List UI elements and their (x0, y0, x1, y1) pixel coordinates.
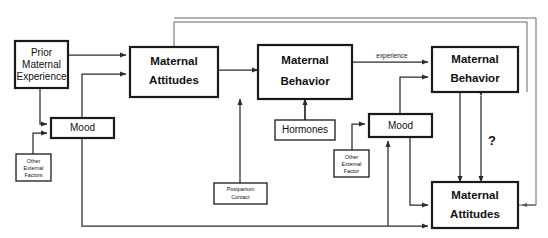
node-mood-left[interactable]: Mood (51, 118, 114, 138)
edge-other-factors-left-to-mood-left (33, 133, 47, 154)
hormones-label: Hormones (282, 124, 328, 135)
prior-maternal-experience-line2: Maternal (22, 59, 61, 70)
maternal-behavior-right-line1: Maternal (451, 53, 498, 65)
postpartum-contact-line1: Postpartum (227, 186, 255, 192)
maternal-behavior-center-line2: Behavior (280, 75, 330, 87)
maternal-behavior-right-line2: Behavior (450, 72, 500, 84)
node-maternal-behavior-center[interactable]: Maternal Behavior (258, 45, 352, 99)
node-maternal-attitudes-right[interactable]: Maternal Attitudes (432, 182, 518, 228)
node-prior-maternal-experience[interactable]: Prior Maternal Experience (15, 41, 68, 88)
maternal-attitudes-right-line1: Maternal (451, 189, 498, 201)
mood-right-label: Mood (388, 120, 413, 131)
node-other-external-factors-left[interactable]: Other External Factors (16, 154, 51, 181)
flow-diagram-svg: Prior Maternal Experience Maternal Attit… (0, 0, 548, 238)
edge-other-factor-right-to-mood-right (352, 124, 365, 150)
node-hormones[interactable]: Hormones (275, 120, 335, 140)
prior-maternal-experience-line1: Prior (31, 47, 53, 58)
node-postpartum-contact[interactable]: Postpartum Contact (214, 183, 267, 204)
maternal-attitudes-left-line1: Maternal (150, 55, 197, 67)
edge-bottom-bus-mood-left-to-attitudes-right (82, 138, 428, 226)
mood-left-label: Mood (70, 122, 95, 133)
edge-prior-experience-to-mood-left (40, 88, 47, 124)
edge-label-question: ? (488, 133, 496, 148)
maternal-attitudes-right-line2: Attitudes (450, 208, 500, 220)
other-external-factors-left-line2: External (24, 165, 44, 171)
other-external-factors-left-line1: Other (27, 158, 41, 164)
other-external-factor-right-line2: External (342, 161, 362, 167)
diagram-canvas: Prior Maternal Experience Maternal Attit… (0, 0, 548, 238)
node-maternal-behavior-right[interactable]: Maternal Behavior (432, 47, 518, 92)
other-external-factor-right-line3: Factor (344, 168, 359, 174)
node-other-external-factor-right[interactable]: Other External Factor (334, 150, 369, 177)
node-mood-right[interactable]: Mood (369, 114, 432, 137)
other-external-factor-right-line1: Other (345, 154, 359, 160)
node-maternal-attitudes-left[interactable]: Maternal Attitudes (130, 47, 218, 97)
edge-label-experience: experience (376, 52, 408, 60)
edge-mood-right-to-attitudes-right (410, 137, 428, 205)
postpartum-contact-line2: Contact (231, 194, 250, 200)
maternal-behavior-center-line1: Maternal (281, 54, 328, 66)
maternal-attitudes-left-line2: Attitudes (149, 74, 199, 86)
edge-mood-right-to-behavior-right (400, 77, 428, 114)
edge-mood-left-to-attitudes-left (82, 74, 126, 118)
prior-maternal-experience-line3: Experience (16, 71, 66, 82)
other-external-factors-left-line3: Factors (25, 172, 43, 178)
